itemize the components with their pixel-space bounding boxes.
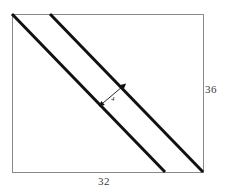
band-width-dimension-label: 4 (111, 95, 115, 103)
rectangle-outline (13, 15, 204, 173)
height-dimension-label: 36 (205, 83, 217, 95)
geometry-figure: 36 32 4 (0, 0, 226, 196)
width-dimension-label: 32 (98, 175, 110, 187)
